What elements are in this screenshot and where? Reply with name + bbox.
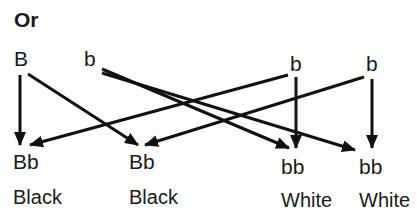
offspring-2-genotype: Bb bbox=[129, 150, 155, 174]
offspring-4-phenotype: White bbox=[359, 189, 410, 212]
parent2-allele-2: b bbox=[366, 52, 378, 76]
parent1-allele-2: b bbox=[84, 47, 96, 71]
arrow-b2-to-offspring1 bbox=[30, 75, 288, 145]
cross-arrows bbox=[0, 0, 417, 217]
offspring-3-phenotype: White bbox=[281, 189, 332, 212]
offspring-1-phenotype: Black bbox=[13, 186, 62, 209]
arrow-B-to-offspring2 bbox=[28, 74, 138, 145]
offspring-2-phenotype: Black bbox=[129, 186, 178, 209]
offspring-3-genotype: bb bbox=[281, 155, 304, 179]
offspring-1-genotype: Bb bbox=[13, 150, 39, 174]
arrow-b-to-offspring4 bbox=[102, 73, 355, 150]
parent2-allele-1: b bbox=[290, 52, 302, 76]
title: Or bbox=[14, 8, 39, 32]
parent1-allele-1: B bbox=[14, 47, 28, 71]
offspring-4-genotype: bb bbox=[359, 155, 382, 179]
